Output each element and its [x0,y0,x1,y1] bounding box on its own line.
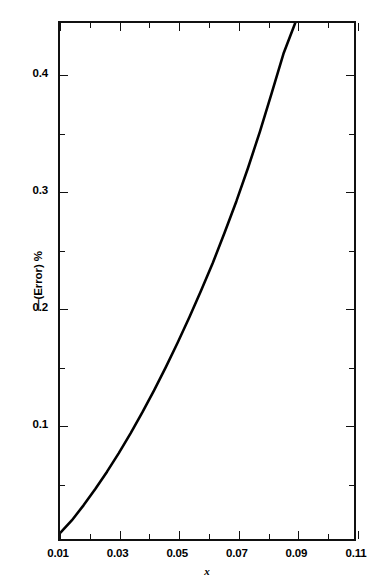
x-tick-label: 0.07 [226,547,248,559]
x-tick-minor [269,23,270,28]
plot-area [58,21,356,541]
x-tick-major [120,23,121,31]
x-axis-title: x [204,565,210,577]
x-tick-minor [328,534,329,539]
x-tick-minor [149,23,150,28]
x-tick-minor [209,23,210,28]
y-tick-minor [60,134,65,135]
x-tick-label: 0.09 [286,547,308,559]
x-tick-minor [209,534,210,539]
x-tick-major [120,531,121,539]
x-tick-major [179,23,180,31]
x-tick-minor [149,534,150,539]
error-curve [60,23,354,539]
y-tick-label: 0.4 [33,67,48,79]
y-tick-major [346,192,354,193]
y-tick-label: 0.3 [33,184,48,196]
y-tick-major [60,192,68,193]
y-tick-minor [60,368,65,369]
y-tick-major [60,75,68,76]
y-tick-minor [349,134,354,135]
y-tick-minor [349,485,354,486]
x-tick-minor [90,23,91,28]
y-tick-major [346,309,354,310]
x-tick-major [298,23,299,31]
y-tick-minor [349,251,354,252]
x-tick-major [239,531,240,539]
x-tick-label: 0.01 [47,547,69,559]
x-tick-label: 0.03 [107,547,129,559]
y-tick-major [60,426,68,427]
x-tick-major [298,531,299,539]
y-tick-major [346,75,354,76]
x-tick-label: 0.11 [346,547,367,559]
x-tick-major [179,531,180,539]
x-tick-major [60,23,61,31]
x-tick-minor [328,23,329,28]
y-axis-title: —(Error) % [32,251,44,311]
y-tick-major [346,426,354,427]
x-tick-major [358,23,359,31]
y-tick-major [60,309,68,310]
x-tick-major [60,531,61,539]
y-tick-minor [60,485,65,486]
x-tick-minor [90,534,91,539]
y-tick-label: 0.1 [33,418,48,430]
y-tick-minor [60,251,65,252]
x-tick-minor [269,534,270,539]
y-tick-minor [349,368,354,369]
x-tick-major [358,531,359,539]
x-tick-label: 0.05 [166,547,188,559]
chart-figure: 0.010.030.050.070.090.11 0.10.20.30.4 x … [0,0,380,586]
x-tick-major [239,23,240,31]
